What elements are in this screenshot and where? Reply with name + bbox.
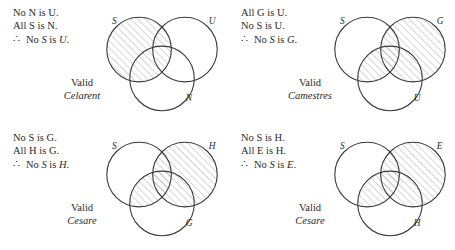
- circle-label-u: U: [414, 93, 422, 103]
- circle-label-h: H: [413, 218, 422, 228]
- premise-1: No S is G.: [13, 131, 69, 144]
- argument-text: No S is G. All H is G. ∴No S is H.: [13, 131, 69, 171]
- venn-diagram-cesare-right: S E H: [328, 129, 452, 249]
- venn-diagram-celarent: S U N: [100, 4, 224, 124]
- premise-2: All E is H.: [241, 144, 296, 157]
- therefore-icon: ∴: [13, 33, 26, 46]
- venn-diagram-camestres: S G U: [328, 4, 452, 124]
- circle-label-s: S: [112, 16, 117, 26]
- circle-label-g: G: [437, 16, 444, 26]
- circle-label-s: S: [112, 141, 117, 151]
- circle-label-g: G: [186, 218, 193, 228]
- conclusion: No S is G.: [254, 34, 297, 45]
- conclusion: No S is H.: [26, 159, 69, 170]
- argument-text: No S is H. All E is H. ∴No S is E.: [241, 131, 296, 171]
- venn-diagram-cesare-left: S H G: [100, 129, 224, 249]
- therefore-icon: ∴: [241, 33, 254, 46]
- conclusion-line: ∴No S is E.: [241, 158, 296, 171]
- syllogism-panel-camestres: All G is U. No S is U. ∴No S is G. Valid…: [228, 0, 455, 125]
- syllogism-panel-cesare-left: No S is G. All H is G. ∴No S is H. Valid…: [0, 125, 227, 250]
- premise-2: No S is U.: [241, 19, 297, 32]
- conclusion-line: ∴No S is H.: [13, 158, 69, 171]
- circle-label-u: U: [209, 16, 217, 26]
- therefore-icon: ∴: [13, 158, 26, 171]
- conclusion-line: ∴No S is U.: [13, 33, 69, 46]
- conclusion-line: ∴No S is G.: [241, 33, 297, 46]
- circle-label-s: S: [340, 141, 345, 151]
- conclusion: No S is U.: [26, 34, 69, 45]
- syllogism-venn-figure-sheet: No N is U. All S is N. ∴No S is U. Valid…: [0, 0, 455, 250]
- syllogism-panel-celarent: No N is U. All S is N. ∴No S is U. Valid…: [0, 0, 227, 125]
- circle-label-e: E: [436, 141, 443, 151]
- premise-2: All S is N.: [13, 19, 69, 32]
- argument-text: All G is U. No S is U. ∴No S is G.: [241, 6, 297, 46]
- circle-label-s: S: [340, 16, 345, 26]
- premise-1: No N is U.: [13, 6, 69, 19]
- conclusion: No S is E.: [254, 159, 296, 170]
- premise-1: All G is U.: [241, 6, 297, 19]
- circle-label-h: H: [208, 141, 217, 151]
- syllogism-panel-cesare-right: No S is H. All E is H. ∴No S is E. Valid…: [228, 125, 455, 250]
- therefore-icon: ∴: [241, 158, 254, 171]
- premise-2: All H is G.: [13, 144, 69, 157]
- premise-1: No S is H.: [241, 131, 296, 144]
- argument-text: No N is U. All S is N. ∴No S is U.: [13, 6, 69, 46]
- circle-label-n: N: [185, 93, 193, 103]
